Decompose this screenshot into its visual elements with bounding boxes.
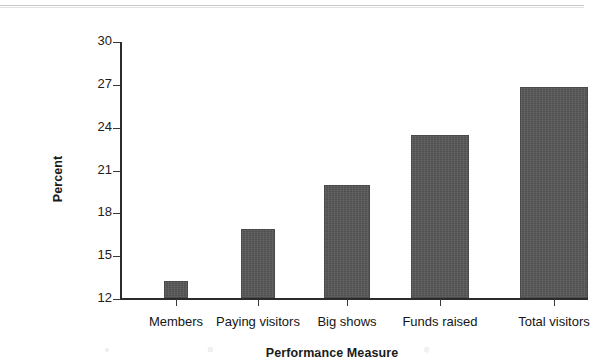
y-tick: [113, 256, 120, 257]
scan-artifact-line: [0, 5, 584, 6]
plot-area: 12151821242730 MembersPaying visitorsBig…: [120, 42, 588, 299]
y-tick-label: 12: [74, 290, 112, 305]
scan-artifact-line-secondary: [0, 7, 584, 8]
bar: [164, 281, 188, 298]
y-axis-line: [120, 42, 122, 299]
x-tick-label: Paying visitors: [216, 314, 300, 329]
bar: [324, 185, 370, 298]
y-tick: [113, 299, 120, 300]
y-tick-label: 30: [74, 33, 112, 48]
x-tick: [440, 299, 441, 306]
y-tick: [113, 128, 120, 129]
y-tick-label: 18: [74, 204, 112, 219]
y-tick-label: 21: [74, 162, 112, 177]
x-axis-line: [120, 298, 588, 300]
y-tick-label: 27: [74, 76, 112, 91]
y-tick: [113, 42, 120, 43]
scan-artifact-speckle: [60, 347, 530, 353]
y-tick: [113, 213, 120, 214]
bar: [520, 87, 588, 298]
x-tick: [258, 299, 259, 306]
x-tick: [176, 299, 177, 306]
y-tick: [113, 85, 120, 86]
x-tick-label: Big shows: [317, 314, 376, 329]
bar: [241, 229, 275, 298]
x-tick-label: Funds raised: [402, 314, 477, 329]
y-tick: [113, 171, 120, 172]
x-tick: [347, 299, 348, 306]
bar: [411, 135, 469, 298]
x-tick: [554, 299, 555, 306]
y-axis-title: Percent: [51, 134, 65, 224]
x-tick-label: Members: [149, 314, 203, 329]
x-tick-label: Total visitors: [518, 314, 590, 329]
y-tick-label: 24: [74, 119, 112, 134]
bar-chart: Percent 12151821242730 MembersPaying vis…: [40, 16, 594, 359]
y-tick-label: 15: [74, 247, 112, 262]
